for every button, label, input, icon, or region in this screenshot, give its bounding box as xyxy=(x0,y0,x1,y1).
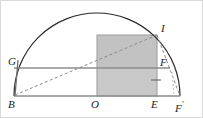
point-label-F-prime-base: F xyxy=(175,102,182,114)
geometry-figure: B O E F′ G F I xyxy=(0,0,203,118)
dashed-vertical-guide xyxy=(172,72,174,94)
figure-canvas xyxy=(0,0,203,118)
point-label-B: B xyxy=(8,99,15,110)
prime-mark: ′ xyxy=(182,100,184,109)
point-label-O: O xyxy=(91,99,99,110)
shaded-rect-lower xyxy=(97,68,157,96)
point-label-I: I xyxy=(161,23,165,34)
point-label-F-prime: F′ xyxy=(175,99,183,114)
point-label-E: E xyxy=(151,99,158,110)
point-label-G: G xyxy=(8,56,16,67)
point-label-F: F xyxy=(160,57,167,68)
shaded-rect-upper xyxy=(97,35,157,68)
